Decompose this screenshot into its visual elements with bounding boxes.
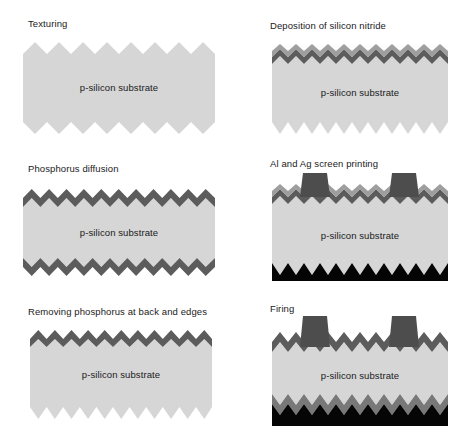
panel-deposition-of-silicon-nitride: Deposition of silicon nitride p-silicon … [255,0,465,146]
panel-firing: Firing p-silicon substrate [255,295,465,439]
front-contact-pad-1 [300,316,330,347]
process-flow-figure: Texturing p-silicon substrate Deposition… [0,0,465,439]
panel-title-phosphorus-diffusion: Phosphorus diffusion [28,163,119,174]
panel-title-deposition-of-silicon-nitride: Deposition of silicon nitride [270,20,386,31]
panel-removing-phosphorus-at-back-and-edges: Removing phosphorus at back and edges p-… [0,295,240,439]
front-contact-pad-2 [389,316,419,347]
panel-texturing: Texturing p-silicon substrate [0,0,232,146]
substrate-label-deposition-of-silicon-nitride: p-silicon substrate [272,87,448,98]
substrate-label-phosphorus-diffusion: p-silicon substrate [23,227,215,238]
substrate-label-texturing: p-silicon substrate [23,82,215,93]
panel-al-and-ag-screen-printing: Al and Ag screen printing p-silicon subs… [255,150,465,295]
panel-title-removing-phosphorus-at-back-and-edges: Removing phosphorus at back and edges [28,306,207,317]
substrate-label-firing: p-silicon substrate [272,370,448,381]
substrate-label-al-and-ag-screen-printing: p-silicon substrate [272,230,448,241]
panel-title-texturing: Texturing [28,18,67,29]
stack-firing: p-silicon substrate [272,316,448,434]
panel-phosphorus-diffusion: Phosphorus diffusion p-silicon substrate [0,150,232,290]
stack-texturing: p-silicon substrate [23,40,215,136]
panel-title-firing: Firing [270,303,294,314]
stack-phosphorus-diffusion: p-silicon substrate [23,185,215,280]
stack-al-and-ag-screen-printing: p-silicon substrate [272,173,448,291]
stack-deposition-of-silicon-nitride: p-silicon substrate [272,44,448,136]
substrate-label-removing-phosphorus-at-back-and-edges: p-silicon substrate [30,369,212,380]
stack-removing-phosphorus-at-back-and-edges: p-silicon substrate [30,327,212,423]
front-contact-pad-1 [300,173,330,197]
panel-title-al-and-ag-screen-printing: Al and Ag screen printing [270,158,378,169]
front-contact-pad-2 [389,173,419,197]
